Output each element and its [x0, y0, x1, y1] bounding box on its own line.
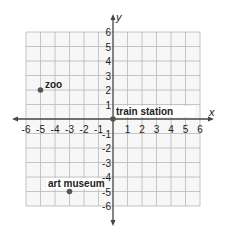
y-tick: -3 [102, 158, 111, 169]
y-tick: -1 [102, 129, 111, 140]
x-tick: -2 [80, 124, 89, 135]
y-tick: 1 [105, 100, 111, 111]
y-axis-label: y [115, 11, 123, 23]
x-axis-left-arrow-icon [12, 117, 18, 122]
point-label-art-museum: art museum [48, 178, 105, 189]
y-tick: 4 [105, 56, 111, 67]
y-tick: 5 [105, 42, 111, 53]
y-tick: 2 [105, 85, 111, 96]
coordinate-plane: x y -6 -5 -4 -3 -2 -1 1 2 3 4 5 6 6 5 4 … [0, 0, 225, 241]
x-tick: -5 [36, 124, 45, 135]
x-tick: 4 [168, 124, 174, 135]
x-tick: 3 [154, 124, 160, 135]
point-label-zoo: zoo [45, 79, 62, 90]
y-tick: -6 [102, 201, 111, 212]
x-tick: -3 [65, 124, 74, 135]
y-tick: 6 [105, 27, 111, 38]
x-tick: 2 [139, 124, 145, 135]
x-tick: 1 [125, 124, 131, 135]
y-axis-up-arrow-icon [111, 14, 116, 20]
x-tick: -6 [22, 124, 31, 135]
x-tick: 5 [183, 124, 189, 135]
x-tick: -4 [51, 124, 60, 135]
x-axis-label: x [208, 106, 215, 118]
x-tick: 6 [197, 124, 203, 135]
y-tick: -2 [102, 143, 111, 154]
point-marker-icon [110, 116, 116, 122]
y-tick: 3 [105, 71, 111, 82]
y-axis-down-arrow-icon [111, 220, 116, 226]
point-marker-icon [38, 87, 44, 93]
point-label-train-station: train station [116, 106, 173, 117]
point-marker-icon [67, 189, 73, 195]
